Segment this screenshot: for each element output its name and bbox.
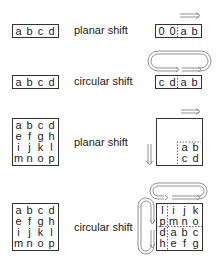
circular-2d-loop-arrows-icon bbox=[0, 0, 218, 264]
